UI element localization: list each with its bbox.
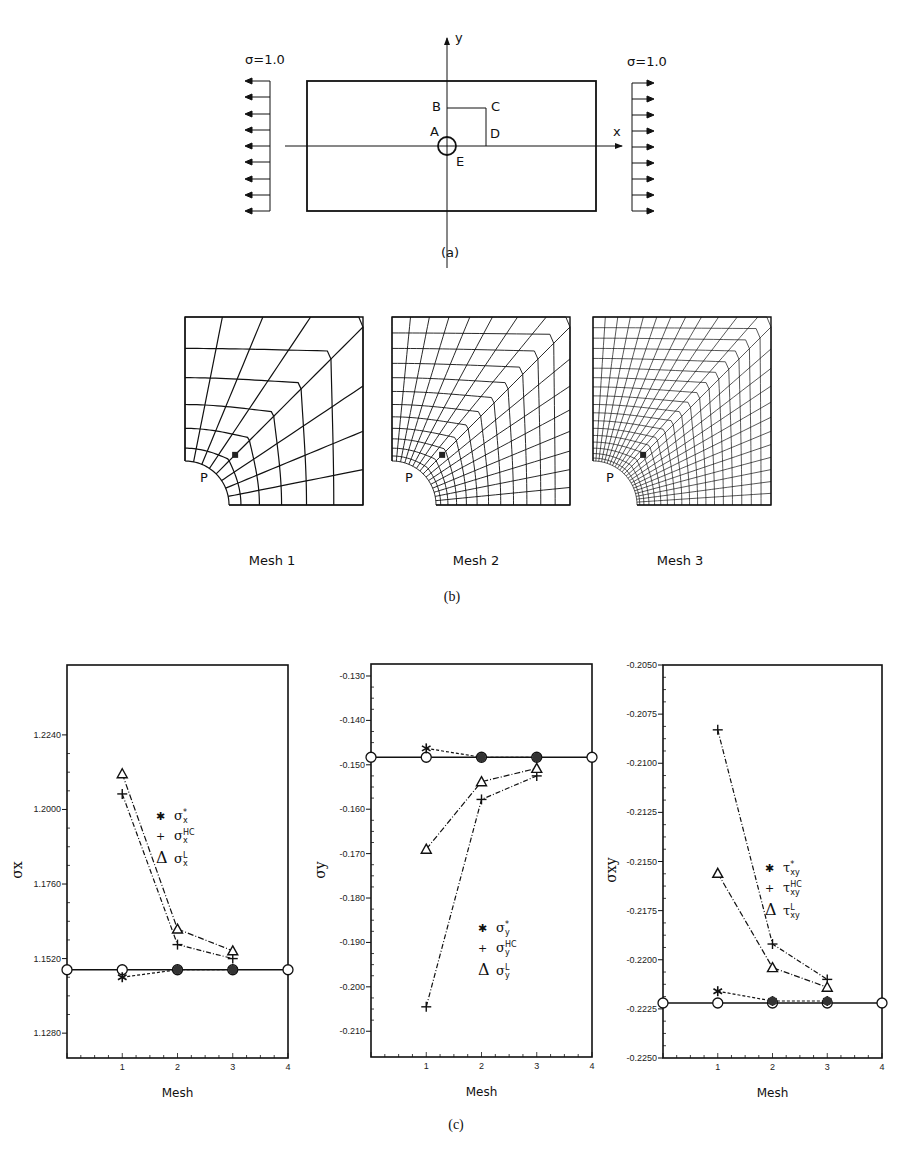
plate-diagram: σ=1.0 σ=1.0 y x A B C D E (a) [0, 0, 919, 280]
legend-entry: ΔσLy [478, 960, 510, 980]
triangle-legend-icon: Δ [765, 900, 783, 919]
asterisk-legend-icon: ✱ [478, 922, 496, 935]
legend-entry: ✱τ*xy [765, 860, 800, 877]
y-tick-label: 1.1280 [33, 1028, 61, 1038]
asterisk-marker [713, 986, 722, 996]
load-label-right: σ=1.0 [627, 54, 667, 69]
point-label-d: D [490, 126, 500, 141]
series-line [718, 873, 828, 987]
y-tick-label: -0.2200 [626, 955, 657, 965]
x-tick-label: 3 [825, 1062, 830, 1072]
legend-symbol: τ [783, 880, 790, 895]
mesh-sample-point-marker [232, 452, 238, 458]
mesh-grid-2 [392, 317, 570, 505]
mesh-point-p-1: P [200, 470, 208, 485]
x-tick-label: 2 [175, 1062, 180, 1072]
series-line [426, 748, 537, 757]
triangle-marker [228, 946, 238, 955]
x-axis-label: Mesh [466, 1085, 498, 1099]
asterisk-legend-icon: ✱ [156, 810, 174, 823]
legend-symbol: σ [174, 851, 183, 866]
caption-a: (a) [441, 245, 459, 260]
reference-marker [173, 965, 183, 975]
x-tick-label: 4 [879, 1062, 884, 1072]
legend-symbol: τ [783, 903, 790, 918]
reference-marker [713, 998, 723, 1008]
y-tick-label: -0.150 [339, 760, 365, 770]
mesh-sample-point-marker [640, 452, 646, 458]
triangle-marker [117, 769, 127, 778]
x-tick-label: 1 [715, 1062, 720, 1072]
reference-marker [877, 998, 887, 1008]
triangle-marker [421, 844, 431, 853]
mesh-label-3: Mesh 3 [657, 553, 704, 568]
reference-marker [658, 998, 668, 1008]
legend-entry: ✱σ*y [478, 920, 510, 937]
asterisk-marker [823, 996, 832, 1006]
mesh-label-2: Mesh 2 [453, 553, 500, 568]
mesh-panel: Mesh 1 Mesh 2 Mesh 3 P P P (b) [0, 300, 919, 620]
x-tick-label: 4 [285, 1062, 290, 1072]
asterisk-marker [118, 972, 127, 982]
x-tick-label: 3 [230, 1062, 235, 1072]
y-tick-label: -0.170 [339, 849, 365, 859]
legend-symbol: τ [783, 860, 790, 875]
load-label-left: σ=1.0 [245, 52, 285, 67]
legend-symbol: σ [174, 808, 183, 823]
point-label-e: E [456, 154, 464, 169]
mesh-label-1: Mesh 1 [249, 553, 296, 568]
series-line [122, 794, 233, 959]
triangle-marker [768, 963, 778, 972]
point-label-c: C [491, 99, 500, 114]
y-tick-label: -0.130 [339, 671, 365, 681]
triangle-marker [477, 777, 487, 786]
triangle-marker [713, 868, 723, 877]
reference-marker [366, 752, 376, 762]
reference-marker [477, 752, 487, 762]
legend-entry: +σHCx [156, 828, 194, 845]
x-tick-label: 4 [589, 1061, 594, 1071]
mesh-svg [0, 300, 919, 620]
y-tick-label: -0.2250 [626, 1053, 657, 1063]
asterisk-marker [768, 996, 777, 1006]
plus-legend-icon: + [156, 830, 174, 843]
y-axis-label: σxy [603, 857, 619, 882]
y-tick-label: -0.190 [339, 937, 365, 947]
reference-marker [283, 965, 293, 975]
series-line [122, 970, 233, 977]
reference-marker [587, 752, 597, 762]
axis-label-x: x [613, 124, 621, 139]
asterisk-marker [422, 743, 431, 753]
mesh-grid-1 [185, 317, 363, 505]
series-line [122, 774, 233, 951]
y-axis-label: σy [312, 861, 328, 878]
x-tick-label: 1 [120, 1062, 125, 1072]
triangle-marker [532, 763, 542, 772]
axis-label-y: y [455, 30, 463, 45]
asterisk-legend-icon: ✱ [765, 862, 783, 875]
plot-frame [371, 664, 592, 1057]
legend-entry: ΔσLx [156, 848, 188, 868]
reference-marker [532, 752, 542, 762]
x-tick-label: 2 [479, 1061, 484, 1071]
plus-legend-icon: + [478, 942, 496, 955]
y-tick-label: -0.2100 [626, 758, 657, 768]
y-tick-label: 1.2240 [33, 730, 61, 740]
triangle-legend-icon: Δ [156, 848, 174, 867]
y-tick-label: 1.2000 [33, 804, 61, 814]
y-tick-label: -0.180 [339, 893, 365, 903]
asterisk-marker [532, 752, 541, 762]
triangle-marker [822, 982, 832, 991]
reference-marker [117, 965, 127, 975]
y-tick-label: 1.1520 [33, 954, 61, 964]
x-tick-label: 3 [534, 1061, 539, 1071]
y-tick-label: -0.2175 [626, 906, 657, 916]
y-tick-label: -0.210 [339, 1026, 365, 1036]
legend-symbol: σ [496, 920, 505, 935]
caption-b: (b) [444, 589, 460, 605]
y-tick-label: -0.160 [339, 804, 365, 814]
plot-frame [67, 665, 288, 1058]
asterisk-marker [228, 965, 237, 975]
reference-marker [421, 752, 431, 762]
reference-marker [228, 965, 238, 975]
